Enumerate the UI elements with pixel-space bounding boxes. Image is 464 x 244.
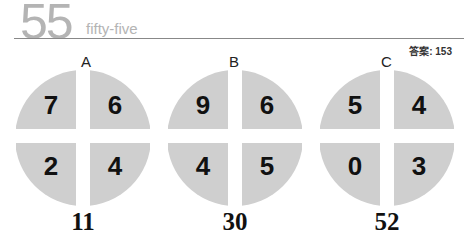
quadrant-top-right: 6 [247, 90, 287, 120]
quadrant-top-left: 9 [183, 90, 223, 120]
page-number: 55 [20, 0, 72, 52]
horizontal-gap [165, 129, 305, 143]
puzzle-result-b: 30 [195, 208, 275, 236]
answer-label: 答案: [409, 46, 432, 57]
quadrant-top-left: 5 [335, 90, 375, 120]
answer: 答案: 153 [409, 43, 452, 58]
puzzle-b: 9 6 4 5 [167, 70, 303, 206]
horizontal-gap [13, 129, 153, 143]
quadrant-bottom-left: 2 [31, 151, 71, 181]
quadrant-top-right: 4 [399, 90, 439, 120]
page-number-word: fifty-five [86, 20, 138, 37]
header-rule [14, 38, 464, 39]
puzzle-c: 5 4 0 3 [319, 70, 455, 206]
quadrant-top-left: 7 [31, 90, 71, 120]
answer-value: 153 [435, 46, 452, 57]
puzzle-result-c: 52 [347, 208, 427, 236]
puzzle-a: 7 6 2 4 [15, 70, 151, 206]
horizontal-gap [317, 129, 457, 143]
puzzle-result-a: 11 [43, 208, 123, 236]
quadrant-top-right: 6 [95, 90, 135, 120]
quadrant-bottom-right: 3 [399, 151, 439, 181]
quadrant-bottom-left: 0 [335, 151, 375, 181]
quadrant-bottom-right: 5 [247, 151, 287, 181]
quadrant-bottom-right: 4 [95, 151, 135, 181]
quadrant-bottom-left: 4 [183, 151, 223, 181]
